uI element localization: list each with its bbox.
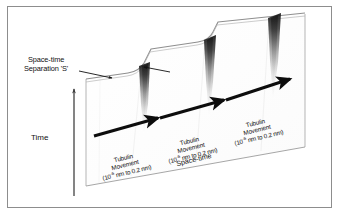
separation-label-line1: Space-time [28,55,64,64]
diagram-canvas [0,0,340,216]
separation-label-line2: Separation 'S' [24,64,68,73]
separation-label: Space-time Separation 'S' [24,56,68,73]
separation-leader-arrow-outer [79,71,112,78]
figure-root: Space-time Separation 'S' Time Tubulin M… [0,0,340,216]
time-axis-label: Time [31,133,48,142]
